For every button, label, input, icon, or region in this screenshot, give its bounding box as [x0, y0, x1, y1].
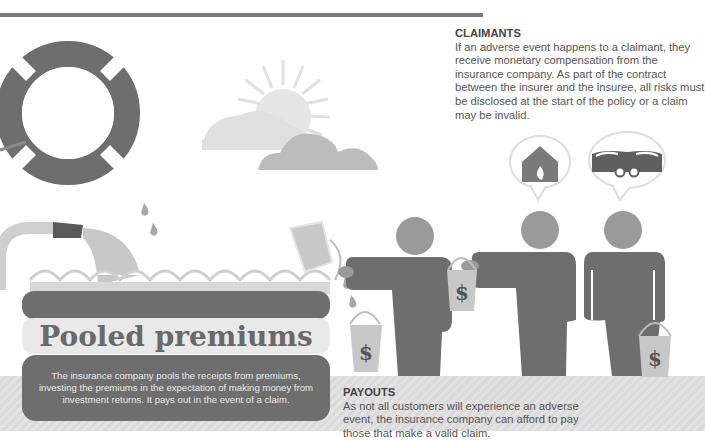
claimants-body: If an adverse event happens to a claiman…: [455, 41, 705, 123]
claimants-heading: CLAIMANTS: [455, 27, 705, 41]
pool-description-band: The insurance company pools the receipts…: [22, 355, 330, 421]
svg-text:$: $: [455, 281, 469, 305]
life-ring-icon: [0, 54, 127, 172]
pool-title: Pooled premiums: [39, 320, 313, 353]
claimants-section: CLAIMANTS If an adverse event happens to…: [455, 27, 705, 122]
payouts-section: PAYOUTS As not all customers will experi…: [343, 386, 603, 440]
payouts-heading: PAYOUTS: [343, 386, 603, 400]
pool-title-band: Pooled premiums: [22, 318, 330, 354]
bucket-icon: $: [350, 312, 382, 372]
svg-text:$: $: [648, 347, 662, 371]
pool-band-top: [22, 291, 330, 319]
person-icon: [461, 211, 576, 376]
payouts-body: As not all customers will experience an …: [343, 400, 603, 440]
svg-text:$: $: [359, 341, 373, 365]
pool-description: The insurance company pools the receipts…: [31, 370, 321, 406]
